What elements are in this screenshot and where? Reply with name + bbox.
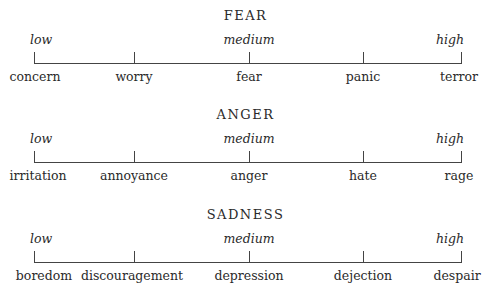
scale-fear: FEAR low medium high concern worry fear … [0, 2, 491, 102]
scale-title: FEAR [0, 8, 491, 23]
tick [363, 52, 364, 64]
level-low-label: low [30, 231, 52, 246]
term-label: despair [433, 268, 480, 283]
scale-anger: ANGER low medium high irritation annoyan… [0, 101, 491, 201]
level-medium-label: medium [223, 32, 274, 47]
term-label: discouragement [81, 268, 183, 283]
term-label: dejection [334, 268, 392, 283]
tick [134, 151, 135, 163]
level-high-label: high [436, 131, 464, 146]
tick [134, 251, 135, 263]
term-label: panic [346, 69, 381, 84]
tick [461, 151, 462, 163]
level-medium-label: medium [223, 131, 274, 146]
term-label: depression [214, 268, 283, 283]
term-label: fear [236, 69, 261, 84]
tick [363, 151, 364, 163]
scale-sadness: SADNESS low medium high boredom discoura… [0, 201, 491, 301]
tick [134, 52, 135, 64]
term-label: irritation [9, 168, 66, 183]
level-high-label: high [436, 231, 464, 246]
tick [34, 151, 35, 163]
scale-axis [34, 63, 462, 64]
tick [34, 52, 35, 64]
term-label: boredom [16, 268, 72, 283]
term-label: concern [9, 69, 60, 84]
level-medium-label: medium [223, 231, 274, 246]
level-high-label: high [436, 32, 464, 47]
tick [249, 151, 250, 163]
level-low-label: low [30, 32, 52, 47]
tick [34, 251, 35, 263]
term-label: annoyance [100, 168, 168, 183]
tick [249, 251, 250, 263]
scale-axis [34, 162, 462, 163]
term-label: worry [115, 69, 152, 84]
term-label: rage [445, 168, 474, 183]
level-low-label: low [30, 131, 52, 146]
tick [461, 251, 462, 263]
tick [363, 251, 364, 263]
scale-title: ANGER [0, 107, 491, 122]
scale-axis [34, 262, 462, 263]
tick [461, 52, 462, 64]
scale-title: SADNESS [0, 207, 491, 222]
term-label: anger [231, 168, 268, 183]
term-label: hate [349, 168, 377, 183]
term-label: terror [440, 69, 478, 84]
tick [249, 52, 250, 64]
